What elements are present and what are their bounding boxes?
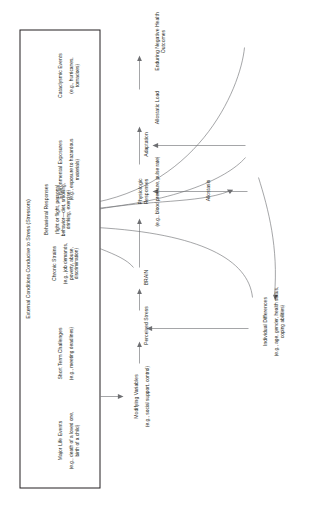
node-modifying-variables: Modifying Variables (e.g., social suppor…: [126, 352, 156, 440]
arrowhead-allostatic-to-outcomes: [137, 55, 142, 61]
wire-individual-to-behavioral: [96, 227, 252, 297]
node-behavioral-responses: Behavioral Responses (fight or flight, p…: [36, 156, 77, 262]
node-enduring-negative-health-outcomes: Enduring Negative Health Outcomes: [147, 4, 171, 78]
stressor-major-life-events: Major Life Events (e.g., death of a love…: [50, 398, 85, 482]
node-allostatic-load: Allostatic Load: [147, 85, 165, 129]
stressor-cataclysmic-events: Cataclysmic Events (e.g., hurricanes, to…: [50, 33, 85, 117]
stress-health-flow-diagram: External Conditions Conducive to Stress …: [0, 0, 322, 509]
node-allostasis: Allostasis: [198, 169, 216, 211]
node-individual-differences: Individual Differences (e.g., age, gende…: [255, 269, 290, 373]
node-perceived-stress: Perceived Stress: [136, 303, 154, 347]
stressor-box-title: External Conditions Conducive to Stress …: [24, 29, 30, 488]
node-brain: BRAIN: [136, 264, 154, 290]
stressor-short-term-challenges: Short Term Challenges (e.g., meeting dea…: [50, 311, 80, 395]
arrowhead-stressors-to-modifying: [117, 394, 123, 399]
